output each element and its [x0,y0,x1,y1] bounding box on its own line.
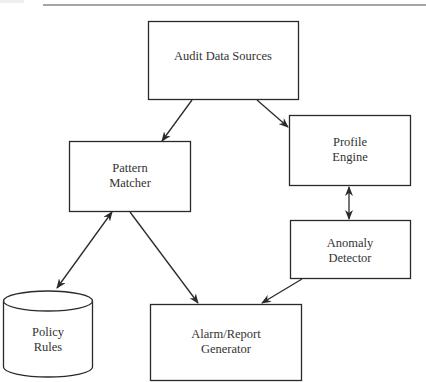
anomaly-detector-node: Anomaly Detector [291,221,411,279]
arrow-pattern-policy-bidirectional [57,212,112,288]
anomaly-detector-label-line1: Anomaly [327,236,374,250]
top-left-mark [0,0,24,3]
arrow-pattern-to-alarm [130,212,198,303]
profile-engine-node: Profile Engine [290,116,411,186]
audit-data-sources-label: Audit Data Sources [174,49,272,63]
alarm-report-label-line1: Alarm/Report [191,327,261,341]
policy-rules-label-line2: Rules [34,340,63,354]
policy-rules-database-node: Policy Rules [4,291,93,377]
pattern-matcher-node: Pattern Matcher [70,142,191,212]
anomaly-detector-label-line2: Detector [328,251,372,265]
arrow-audit-to-profile [257,100,288,127]
audit-data-sources-node: Audit Data Sources [149,22,299,100]
alarm-report-label-line2: Generator [201,342,252,356]
pattern-matcher-label-line1: Pattern [112,161,148,175]
policy-rules-label-line1: Policy [32,325,65,339]
alarm-report-generator-node: Alarm/Report Generator [151,305,302,381]
arrow-audit-to-pattern [162,100,192,141]
ids-architecture-diagram: Audit Data Sources Pattern Matcher Profi… [0,0,426,382]
pattern-matcher-label-line2: Matcher [109,176,151,190]
arrow-anomaly-to-alarm [262,279,302,303]
profile-engine-label-line1: Profile [333,135,367,149]
profile-engine-label-line2: Engine [332,150,368,164]
